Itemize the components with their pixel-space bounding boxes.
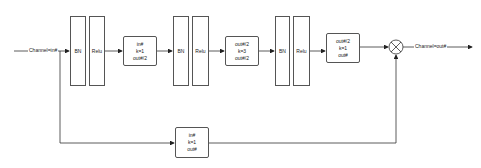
conv-in-channels: out#/2 xyxy=(235,41,249,48)
bn-label: BN xyxy=(75,48,82,55)
relu-label: Relu xyxy=(92,48,102,55)
relu-block-1: Relu xyxy=(89,16,105,86)
bn-label: BN xyxy=(178,48,185,55)
bn-block-2: BN xyxy=(173,16,189,86)
conv-block-2: out#/2 k=3 out#/2 xyxy=(225,36,259,66)
conv-out-channels: out# xyxy=(187,146,197,153)
bn-block-1: BN xyxy=(70,16,86,86)
conv-kernel: k=1 xyxy=(136,48,144,55)
conv-kernel: k=3 xyxy=(238,48,246,55)
bn-label: BN xyxy=(279,48,286,55)
conv-out-channels: out#/2 xyxy=(133,55,147,62)
conv-block-3: out#/2 k=1 out# xyxy=(326,33,360,63)
conv-in-channels: in# xyxy=(137,41,144,48)
conv-out-channels: out# xyxy=(338,52,348,59)
conv-out-channels: out#/2 xyxy=(235,55,249,62)
conv-in-channels: out#/2 xyxy=(336,38,350,45)
relu-block-3: Relu xyxy=(293,16,310,86)
conv-kernel: k=1 xyxy=(188,139,196,146)
output-channel-label: Channel=out# xyxy=(414,43,447,49)
input-channel-label: Channel=in# xyxy=(28,47,58,53)
relu-label: Relu xyxy=(296,48,306,55)
conv-kernel: k=1 xyxy=(339,45,347,52)
skip-conv-block: in# k=1 out# xyxy=(175,127,209,158)
bn-block-3: BN xyxy=(275,16,290,86)
relu-block-2: Relu xyxy=(192,16,209,86)
relu-label: Relu xyxy=(195,48,205,55)
conv-in-channels: in# xyxy=(189,132,196,139)
conv-block-1: in# k=1 out#/2 xyxy=(123,36,157,66)
